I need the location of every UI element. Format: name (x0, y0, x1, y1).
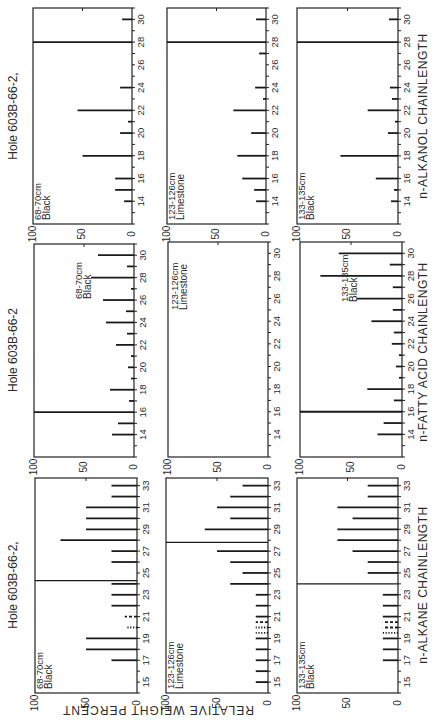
chain-tick-label: 15 (271, 677, 282, 688)
value-tick-label: 0 (396, 464, 407, 470)
chain-tick-label: 24 (269, 82, 280, 93)
lithology-label: Limestone (174, 642, 185, 689)
chain-tick-label: 17 (401, 655, 412, 666)
value-tick-label: 100 (291, 225, 302, 242)
chain-tick-label: 18 (135, 151, 146, 162)
chain-tick-label: 21 (401, 611, 412, 622)
chain-tick-label: 28 (269, 37, 280, 48)
chain-tick-label: 33 (140, 480, 151, 491)
value-tick-label: 50 (341, 697, 352, 709)
chain-tick-label: 16 (137, 407, 148, 418)
value-tick-label: 100 (29, 694, 40, 711)
lithology-label: Black (43, 664, 54, 689)
chain-tick-label: 33 (271, 480, 282, 491)
chain-tick-label: 25 (140, 568, 151, 579)
chain-tick-label: 26 (135, 60, 146, 71)
panel-n-alkane-123126cm: 10050015171921232527293133123-126cmLimes… (160, 478, 282, 711)
chain-tick-label: 15 (140, 677, 151, 688)
chain-tick-label: 33 (401, 480, 412, 491)
chain-tick-label: 29 (140, 524, 151, 535)
panel-frame (297, 8, 398, 224)
chain-tick-label: 30 (137, 250, 148, 261)
value-tick-label: 0 (262, 700, 273, 706)
chain-tick-label: 30 (269, 14, 280, 25)
chain-tick-label: 24 (271, 316, 282, 327)
chain-tick-label: 16 (271, 406, 282, 417)
chain-tick-label: 18 (405, 384, 416, 395)
chain-tick-label: 20 (405, 361, 416, 372)
chain-tick-label: 17 (271, 655, 282, 666)
chain-tick-label: 18 (271, 384, 282, 395)
chain-tick-label: 20 (269, 128, 280, 139)
chain-tick-label: 16 (401, 173, 412, 184)
value-tick-label: 100 (291, 694, 302, 711)
value-tick-label: 0 (260, 231, 271, 237)
lithology-label: Black (305, 664, 316, 689)
lithology-label: Limestone (178, 263, 189, 310)
chain-tick-label: 14 (405, 429, 416, 440)
value-tick-label: 0 (392, 231, 403, 237)
value-tick-label: 0 (128, 464, 139, 470)
chain-tick-label: 28 (401, 37, 412, 48)
hole-title: Hole 603B-66-2, (6, 72, 20, 159)
chain-tick-label: 19 (271, 633, 282, 644)
hole-title: Hole 603B-66-2, (6, 541, 20, 628)
value-tick-label: 100 (294, 458, 305, 475)
chainlength-axis-label: n-ALKANOL CHAINLENGTH (416, 33, 430, 198)
chain-tick-label: 31 (271, 502, 282, 513)
chain-tick-label: 16 (405, 406, 416, 417)
chain-tick-label: 30 (401, 14, 412, 25)
chain-tick-label: 22 (135, 105, 146, 116)
panel-n-fatty-acid-123126cm: 100500141618202224262830123-126cmLimesto… (162, 242, 282, 475)
chain-tick-label: 20 (137, 362, 148, 373)
value-tick-label: 50 (341, 228, 352, 240)
value-tick-label: 100 (27, 225, 38, 242)
chain-tick-label: 31 (140, 502, 151, 513)
chainlength-axis-label: n-FATTY ACID CHAINLENGTH (416, 262, 430, 442)
value-tick-label: 50 (76, 228, 87, 240)
chain-tick-label: 28 (271, 271, 282, 282)
chain-tick-label: 26 (271, 293, 282, 304)
chain-tick-label: 27 (140, 546, 151, 557)
lithology-label: Black (305, 195, 316, 220)
chain-tick-label: 21 (140, 611, 151, 622)
chain-tick-label: 31 (401, 502, 412, 513)
lithology-label: Black (82, 274, 93, 299)
chain-tick-label: 28 (405, 271, 416, 282)
value-tick-label: 0 (262, 464, 273, 470)
chain-tick-label: 30 (405, 248, 416, 259)
panel-n-fatty-acid-6870cm: 10050014161820222426283068-70cmBlackHole… (6, 244, 147, 475)
chain-tick-label: 16 (135, 173, 146, 184)
value-tick-label: 100 (28, 458, 39, 475)
value-tick-label: 100 (161, 225, 172, 242)
panel-frame (300, 242, 402, 457)
panel-n-alkanol-133135cm: 100500141618202224262830133-135cmBlackn-… (291, 8, 431, 242)
chain-tick-label: 27 (401, 546, 412, 557)
chain-tick-label: 20 (401, 128, 412, 139)
chain-tick-label: 24 (137, 317, 148, 328)
chain-tick-label: 30 (135, 14, 146, 25)
lithology-label: Black (348, 277, 359, 302)
chain-tick-label: 17 (140, 655, 151, 666)
value-tick-label: 100 (162, 458, 173, 475)
chain-tick-label: 24 (135, 82, 146, 93)
value-tick-label: 0 (126, 231, 137, 237)
value-tick-label: 0 (392, 700, 403, 706)
chain-tick-label: 25 (271, 568, 282, 579)
relative-weight-axis-label: RELATIVE WEIGHT PERCENT (62, 703, 254, 717)
chain-tick-label: 28 (137, 272, 148, 283)
chain-tick-label: 22 (401, 105, 412, 116)
chain-tick-label: 29 (271, 524, 282, 535)
value-tick-label: 50 (78, 461, 89, 473)
chain-tick-label: 26 (401, 60, 412, 71)
chain-tick-label: 20 (271, 361, 282, 372)
chain-tick-label: 16 (269, 173, 280, 184)
chain-tick-label: 23 (271, 589, 282, 600)
chain-tick-label: 29 (401, 524, 412, 535)
chain-tick-label: 23 (140, 589, 151, 600)
chain-tick-label: 14 (269, 196, 280, 207)
chain-tick-label: 26 (137, 295, 148, 306)
panel-n-alkanol-6870cm: 10050014161820222426283068-70cmBlackHole… (6, 8, 145, 242)
chain-tick-label: 25 (401, 568, 412, 579)
hole-title: Hole 603B-66-2 (6, 308, 20, 392)
